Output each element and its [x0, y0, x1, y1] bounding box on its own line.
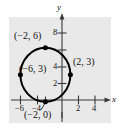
- y-tick-label-8: 8: [53, 28, 57, 37]
- point-label-2-3: (2, 3): [73, 57, 95, 67]
- point-label-minus6-3: (−6, 3): [19, 64, 46, 74]
- x-axis: [11, 98, 111, 103]
- x-tick-label-minus6: −6: [15, 104, 24, 113]
- x-tick-label-4: 4: [92, 104, 96, 113]
- y-axis-label: y: [57, 3, 61, 12]
- y-tick-label-4: 4: [53, 62, 57, 71]
- ellipse-curve: [20, 48, 70, 102]
- y-tick-label-2: 2: [53, 79, 57, 88]
- point-minus2-6: [43, 45, 48, 50]
- point-label-minus2-6: (−2, 6): [14, 31, 41, 41]
- figure-container: x y −6 −4 2 4 2 4 8 (−2, 6) (−6, 3) (2, …: [0, 0, 124, 133]
- x-axis-label: x: [112, 95, 116, 104]
- point-minus2-0: [43, 99, 48, 104]
- vertex-markers: [18, 45, 73, 104]
- x-tick-label-2: 2: [76, 104, 80, 113]
- point-2-3: [68, 72, 73, 77]
- point-label-minus2-0: (−2, 0): [24, 110, 51, 120]
